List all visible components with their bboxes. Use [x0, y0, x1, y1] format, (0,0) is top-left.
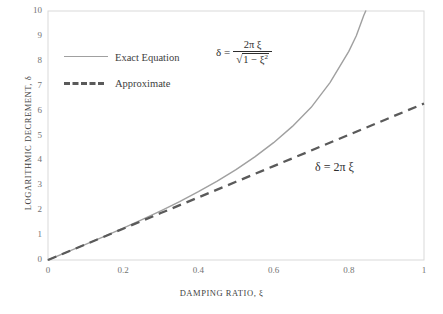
y-tick-label: 10: [14, 5, 42, 15]
legend-label-approximate: Approximate: [108, 78, 170, 89]
x-tick-label: 0.6: [254, 265, 294, 275]
chart-figure: 012345678910 00.20.40.60.81 LOGARITHMIC …: [0, 0, 443, 314]
x-tick-label: 0.8: [329, 265, 369, 275]
legend-swatch-dashed-line: [64, 78, 108, 88]
exact-equation-numerator: 2π ξ: [240, 39, 266, 51]
radicand-exponent: 2: [264, 52, 268, 60]
x-tick-label: 0.4: [178, 265, 218, 275]
radicand-text: 1 − ξ: [243, 54, 264, 65]
radicand: 1 − ξ2: [242, 53, 269, 65]
approximate-equation-annotation: δ = 2π ξ: [315, 160, 354, 175]
y-tick-label: 9: [14, 30, 42, 40]
y-tick-label: 0: [14, 254, 42, 264]
y-axis-title: LOGARITHMIC DECREMENT, δ: [23, 53, 33, 233]
legend-item-exact-equation: Exact Equation: [64, 44, 214, 70]
x-tick-label: 1: [404, 265, 443, 275]
x-tick-label: 0: [28, 265, 68, 275]
exact-equation-annotation: δ = 2π ξ √1 − ξ2: [216, 39, 272, 65]
legend-label-exact-equation: Exact Equation: [108, 52, 179, 63]
exact-equation-fraction: 2π ξ √1 − ξ2: [233, 39, 272, 65]
x-axis-title: DAMPING RATIO, ξ: [0, 288, 443, 298]
x-tick-label: 0.2: [103, 265, 143, 275]
exact-equation-denominator: √1 − ξ2: [233, 52, 272, 65]
legend-item-approximate: Approximate: [64, 70, 214, 96]
exact-equation-lhs: δ =: [216, 46, 233, 58]
chart-legend: Exact Equation Approximate: [64, 44, 214, 96]
legend-swatch-solid-line: [64, 52, 108, 62]
